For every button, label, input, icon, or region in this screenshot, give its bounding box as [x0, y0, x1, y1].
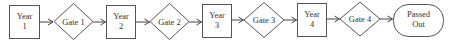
node-label: 1 [22, 21, 26, 31]
node-label: Year [113, 11, 129, 21]
node-label: Year [209, 10, 225, 20]
node-label: Gate 2 [158, 17, 180, 27]
node-passed-out: Passed Out [394, 5, 444, 37]
arrow-g3-y4 [284, 17, 297, 23]
arrow-y2-g2 [136, 19, 150, 25]
node-label: 2 [119, 21, 123, 31]
node-label: 3 [215, 20, 219, 30]
node-year-2: Year 2 [107, 6, 136, 39]
node-label: Year [17, 11, 33, 21]
arrow-g1-y2 [93, 19, 106, 25]
arrow-y1-g1 [40, 19, 54, 25]
node-label: Out [412, 19, 425, 29]
arrow-g2-y3 [189, 19, 202, 25]
node-gate-3: Gate 3 [244, 3, 284, 38]
node-year-1: Year 1 [10, 6, 40, 39]
node-label: Year [304, 9, 320, 19]
node-year-3: Year 3 [203, 5, 232, 38]
node-gate-2: Gate 2 [150, 4, 189, 40]
arrow-g4-out [380, 16, 393, 22]
node-label: Gate 3 [253, 15, 275, 25]
node-label: Gate 4 [349, 14, 372, 24]
flowchart: Year 1 Gate 1 Year 2 Gate 2 Year 3 [0, 0, 452, 43]
node-label: Passed [407, 9, 431, 19]
node-gate-1: Gate 1 [54, 4, 93, 40]
node-year-4: Year 4 [298, 4, 327, 37]
arrow-y3-g3 [232, 17, 244, 23]
arrow-y4-g4 [327, 16, 340, 22]
node-label: Gate 1 [62, 17, 84, 27]
node-gate-4: Gate 4 [340, 2, 380, 36]
